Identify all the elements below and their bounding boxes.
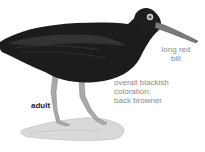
eye [148, 15, 152, 19]
bill-annotation: long red bill [161, 45, 191, 63]
leg-left [51, 75, 70, 126]
coloration-annotation-line-2: coloration; [114, 87, 169, 96]
bird-illustration: long red bill overall blackish coloratio… [0, 0, 205, 152]
bird-head [134, 8, 158, 32]
bird-drawing [0, 0, 205, 152]
ground-rock [21, 118, 124, 141]
coloration-annotation: overall blackish coloration; back browne… [114, 78, 169, 105]
coloration-annotation-line-3: back browner [114, 96, 169, 105]
bill-annotation-line-2: bill [161, 54, 191, 63]
coloration-annotation-line-1: overall blackish [114, 78, 169, 87]
age-label: adult [31, 101, 50, 110]
bill [155, 22, 198, 43]
bill-annotation-line-1: long red [161, 45, 191, 54]
